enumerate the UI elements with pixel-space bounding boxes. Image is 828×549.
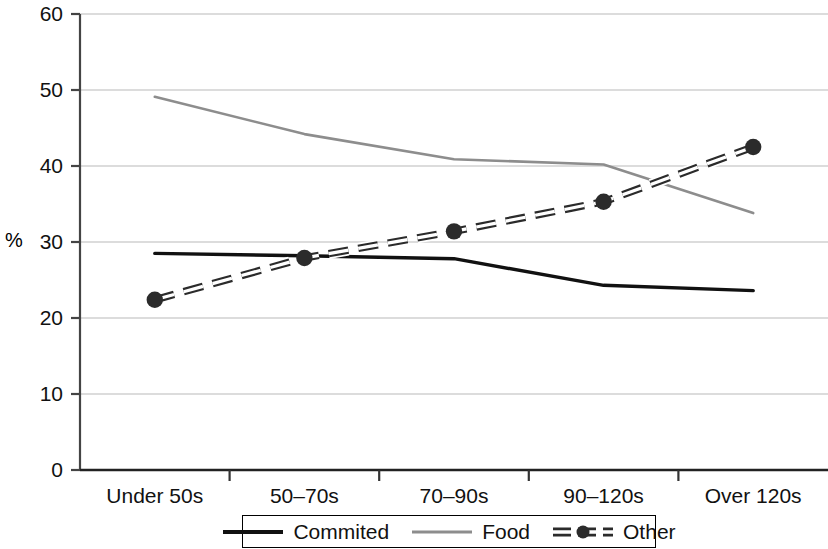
- series-line-food: [155, 97, 753, 213]
- chart-legend: CommitedFoodOther: [242, 515, 656, 548]
- series-marker-other: [446, 223, 462, 239]
- y-axis-title: %: [5, 229, 23, 252]
- legend-swatch-solid-gray-line: [411, 524, 473, 540]
- legend-swatch-solid-black-line: [222, 524, 284, 540]
- legend-label: Other: [623, 521, 676, 542]
- y-axis-tick-label: 60: [40, 3, 63, 24]
- x-axis-tick-label: Under 50s: [75, 485, 235, 506]
- x-axis-tick-label: 90–120s: [524, 485, 684, 506]
- series-marker-other: [147, 292, 163, 308]
- x-axis-tick-label: 70–90s: [374, 485, 534, 506]
- series-marker-other: [595, 194, 611, 210]
- legend-entry-commited: Commited: [222, 521, 389, 542]
- y-axis-tick-label: 10: [40, 383, 63, 404]
- legend-entry-other: Other: [552, 521, 676, 542]
- y-axis-tick-label: 30: [40, 231, 63, 252]
- y-axis-tick-label: 50: [40, 79, 63, 100]
- legend-marker: [577, 525, 590, 538]
- x-axis-tick-label: 50–70s: [224, 485, 384, 506]
- line-chart: % 0102030405060 Under 50s50–70s70–90s90–…: [0, 0, 828, 549]
- legend-label: Food: [482, 521, 530, 542]
- x-axis-tick-label: Over 120s: [673, 485, 828, 506]
- legend-label: Commited: [293, 521, 389, 542]
- y-axis-tick-label: 0: [51, 459, 63, 480]
- legend-entry-food: Food: [411, 521, 530, 542]
- plot-area: [0, 0, 828, 549]
- y-axis-tick-label: 20: [40, 307, 63, 328]
- y-axis-tick-label: 40: [40, 155, 63, 176]
- legend-swatch-dashed-line-with-marker: [552, 524, 614, 540]
- series-marker-other: [745, 139, 761, 155]
- series-marker-other: [296, 250, 312, 266]
